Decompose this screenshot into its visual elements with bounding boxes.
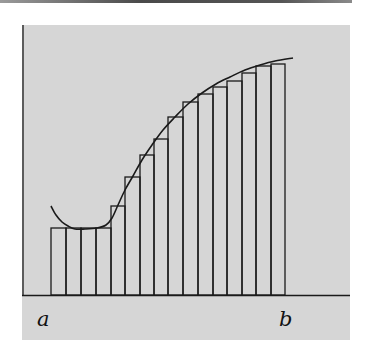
riemann-rectangle	[66, 228, 81, 295]
riemann-rectangle	[256, 66, 271, 295]
riemann-rectangle	[183, 102, 198, 295]
riemann-rectangle	[213, 87, 227, 295]
riemann-rectangle	[168, 117, 183, 295]
label-a: a	[37, 309, 50, 330]
riemann-rectangle	[227, 81, 242, 295]
function-curve	[51, 58, 293, 229]
riemann-rectangle	[198, 94, 213, 295]
riemann-rectangle	[154, 139, 168, 295]
riemann-sum-diagram	[0, 0, 368, 361]
riemann-rectangle	[125, 177, 140, 295]
riemann-rectangle	[81, 228, 96, 295]
riemann-rectangle	[271, 64, 285, 295]
riemann-rectangle	[140, 155, 154, 295]
riemann-rectangle	[111, 206, 125, 295]
label-b: b	[279, 309, 292, 330]
riemann-rectangle	[242, 73, 256, 295]
riemann-rectangle	[96, 228, 111, 295]
riemann-rectangle	[51, 228, 66, 295]
lower-sum-rectangles	[51, 64, 285, 295]
